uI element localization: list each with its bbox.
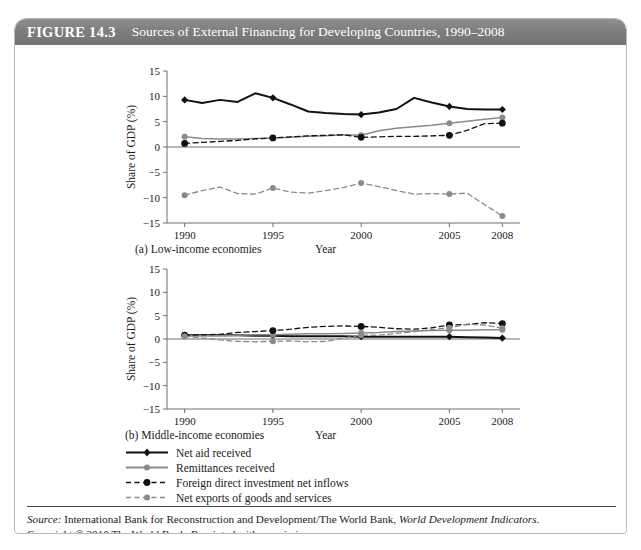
y-tick-label: 15 — [149, 263, 161, 275]
legend-swatch-fdi-net-inflows — [125, 475, 169, 490]
x-tick-label: 2000 — [350, 229, 373, 241]
source-publication-title: World Development Indicators — [399, 513, 537, 525]
data-point-marker — [499, 334, 506, 341]
series-line — [185, 93, 503, 114]
source-text-before: International Bank for Reconstruction an… — [61, 513, 399, 525]
data-point-marker — [358, 134, 365, 141]
series-line — [185, 123, 503, 143]
data-point-marker — [446, 191, 452, 197]
x-tick-label: 1990 — [174, 415, 197, 427]
source-block: Source: International Bank for Reconstru… — [27, 512, 616, 534]
data-point-marker — [446, 132, 453, 139]
chart-svg-middle-income: −15−10−505101519901995200020052008Share … — [15, 263, 627, 448]
x-axis-label-a: Year — [315, 243, 336, 255]
y-tick-label: −5 — [148, 356, 160, 368]
data-point-marker — [499, 115, 505, 121]
chart-panel-middle-income: −15−10−505101519901995200020052008Share … — [15, 263, 627, 448]
y-tick-label: −10 — [143, 380, 161, 392]
source-label: Source: — [27, 513, 61, 525]
legend-item-net-aid-received: Net aid received — [125, 445, 545, 460]
figure-header: FIGURE 14.3 Sources of External Financin… — [15, 19, 626, 45]
legend-swatch-net-exports — [125, 490, 169, 505]
x-tick-label: 2008 — [491, 229, 513, 241]
data-point-marker — [270, 338, 276, 344]
y-tick-label: −15 — [143, 217, 161, 229]
panel-caption-a: (a) Low-income economies — [135, 243, 261, 255]
y-tick-label: 10 — [149, 90, 161, 102]
data-point-marker — [499, 106, 506, 113]
legend-item-remittances-received: Remittances received — [125, 460, 545, 475]
legend-label-net-exports: Net exports of goods and services — [176, 492, 332, 504]
data-point-marker — [446, 325, 452, 331]
series-line — [185, 183, 503, 216]
source-text-after: . — [536, 513, 539, 525]
y-axis-label: Share of GDP (%) — [125, 105, 138, 189]
y-tick-label: 5 — [155, 310, 161, 322]
legend-item-fdi-net-inflows: Foreign direct investment net inflows — [125, 475, 545, 490]
data-point-marker — [499, 325, 505, 331]
series-line — [185, 118, 503, 139]
y-tick-label: 5 — [155, 116, 161, 128]
figure-title: Sources of External Financing for Develo… — [132, 24, 505, 40]
x-tick-label: 1995 — [262, 415, 285, 427]
y-tick-label: −10 — [143, 192, 161, 204]
data-point-marker — [181, 140, 188, 147]
data-point-marker — [270, 327, 277, 334]
data-point-marker — [358, 323, 365, 330]
y-tick-label: 0 — [155, 333, 161, 345]
figure-body: −15−10−505101519901995200020052008Share … — [15, 45, 626, 534]
x-axis-label-b: Year — [315, 429, 336, 441]
x-tick-label: 2008 — [491, 415, 513, 427]
legend-label-net-aid-received: Net aid received — [176, 447, 251, 459]
data-point-marker — [182, 333, 188, 339]
figure-panel: FIGURE 14.3 Sources of External Financin… — [14, 18, 627, 534]
x-tick-label: 1995 — [262, 229, 285, 241]
figure-root: FIGURE 14.3 Sources of External Financin… — [0, 0, 641, 550]
y-tick-label: −5 — [148, 166, 160, 178]
x-tick-label: 2000 — [350, 415, 373, 427]
chart-svg-low-income: −15−10−505101519901995200020052008Share … — [15, 57, 627, 262]
source-divider — [27, 506, 616, 507]
panel-caption-b: (b) Middle-income economies — [125, 429, 264, 441]
legend-item-net-exports: Net exports of goods and services — [125, 490, 545, 505]
x-tick-label: 2005 — [438, 415, 461, 427]
figure-number: FIGURE 14.3 — [27, 24, 116, 41]
legend-swatch-remittances-received — [125, 460, 169, 475]
data-point-marker — [270, 185, 276, 191]
data-point-marker — [499, 120, 506, 127]
legend-label-fdi-net-inflows: Foreign direct investment net inflows — [176, 477, 348, 489]
data-point-marker — [182, 192, 188, 198]
data-point-marker — [182, 134, 188, 140]
chart-panel-low-income: −15−10−505101519901995200020052008Share … — [15, 57, 627, 262]
data-point-marker — [446, 120, 452, 126]
y-axis-label: Share of GDP (%) — [125, 297, 138, 381]
data-point-marker — [270, 134, 277, 141]
data-point-marker — [358, 332, 364, 338]
y-tick-label: 0 — [155, 141, 161, 153]
data-point-marker — [446, 103, 453, 110]
data-point-marker — [499, 213, 505, 219]
legend-swatch-net-aid-received — [125, 445, 169, 460]
x-tick-label: 2005 — [438, 229, 461, 241]
data-point-marker — [269, 94, 276, 101]
source-copyright: Copyright © 2010 The World Bank. Reprint… — [27, 527, 616, 534]
chart-legend: Net aid received Remittances received Fo… — [125, 445, 545, 505]
data-point-marker — [181, 96, 188, 103]
y-tick-label: 10 — [149, 286, 161, 298]
legend-label-remittances-received: Remittances received — [176, 462, 275, 474]
x-tick-label: 1990 — [174, 229, 197, 241]
data-point-marker — [358, 111, 365, 118]
y-tick-label: −15 — [143, 403, 161, 415]
data-point-marker — [358, 180, 364, 186]
y-tick-label: 15 — [149, 65, 161, 77]
